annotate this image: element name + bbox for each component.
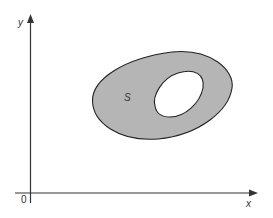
y-axis-arrow-icon <box>27 14 34 23</box>
x-axis-arrow-icon <box>249 190 258 197</box>
y-axis-label: y <box>17 17 24 28</box>
region-s-shape <box>92 52 232 140</box>
x-axis-label: x <box>245 198 252 209</box>
region-diagram: S y x 0 <box>0 0 273 218</box>
origin-label: 0 <box>21 194 27 205</box>
region-s <box>92 52 232 140</box>
region-label: S <box>124 92 131 103</box>
